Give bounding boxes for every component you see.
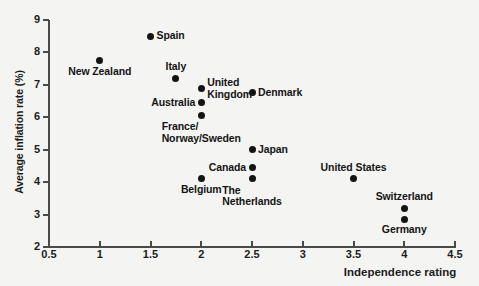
data-point-label: Australia (151, 97, 195, 109)
x-tick-label: 4 (384, 249, 424, 260)
y-tick-mark (43, 149, 49, 151)
x-tick-mark (99, 241, 101, 247)
x-tick-label: 1.5 (131, 249, 171, 260)
data-point[interactable] (198, 175, 205, 182)
data-point-label: Italy (166, 62, 187, 74)
x-axis-title: Independence rating (320, 266, 479, 278)
x-tick-label: 4.5 (435, 249, 475, 260)
y-axis-title: Average inflation rate (%) (13, 42, 25, 222)
x-tick-label: 2.5 (232, 249, 272, 260)
data-point[interactable] (249, 164, 256, 171)
data-point[interactable] (401, 216, 408, 223)
x-tick-mark (302, 241, 304, 247)
x-tick-mark (353, 241, 355, 247)
x-tick-label: 3 (283, 249, 323, 260)
data-point-label: Switzerland (376, 191, 433, 203)
scatter-chart: 98765432 0.511.522.533.544.5 SpainNew Ze… (0, 0, 479, 286)
data-point-label: United States (321, 162, 387, 174)
data-point[interactable] (96, 57, 103, 64)
x-tick-mark (150, 241, 152, 247)
data-point-label: France/ Norway/Sweden (162, 121, 241, 144)
y-tick-mark (43, 214, 49, 216)
x-tick-label: 0.5 (29, 249, 69, 260)
data-point[interactable] (401, 205, 408, 212)
x-tick-label: 2 (181, 249, 221, 260)
y-tick-mark (43, 84, 49, 86)
y-tick-mark (43, 51, 49, 53)
data-point-label: United Kingdom (207, 77, 252, 100)
x-tick-mark (48, 241, 50, 247)
data-point-label: Japan (258, 144, 288, 156)
x-tick-mark (251, 241, 253, 247)
y-tick-label: 9 (0, 14, 40, 25)
y-tick-mark (43, 116, 49, 118)
data-point[interactable] (198, 99, 205, 106)
data-point[interactable] (198, 85, 205, 92)
x-tick-label: 3.5 (334, 249, 374, 260)
y-tick-mark (43, 19, 49, 21)
data-point[interactable] (198, 112, 205, 119)
data-point-label: Spain (157, 30, 185, 42)
x-tick-mark (200, 241, 202, 247)
y-tick-mark (43, 181, 49, 183)
data-point-label: Belgium (181, 184, 222, 196)
data-point-label: New Zealand (68, 66, 131, 78)
data-point[interactable] (147, 33, 154, 40)
data-point-label: The Netherlands (222, 184, 282, 207)
data-point[interactable] (350, 175, 357, 182)
x-tick-mark (454, 241, 456, 247)
data-point[interactable] (249, 89, 256, 96)
data-point[interactable] (249, 146, 256, 153)
data-point-label: Germany (382, 225, 427, 237)
data-point-label: Denmark (258, 87, 302, 99)
data-point[interactable] (249, 175, 256, 182)
x-tick-label: 1 (80, 249, 120, 260)
data-point-label: Canada (209, 162, 246, 174)
x-tick-mark (403, 241, 405, 247)
data-point[interactable] (172, 75, 179, 82)
